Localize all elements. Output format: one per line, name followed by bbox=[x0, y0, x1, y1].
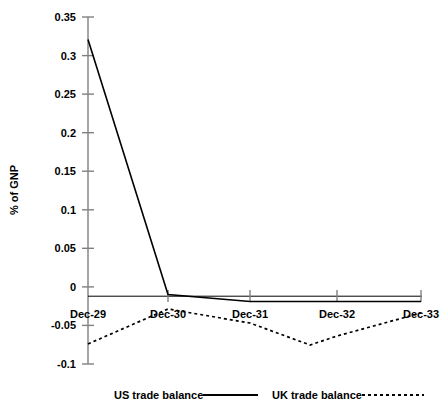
y-tick-label: 0 bbox=[70, 281, 76, 293]
legend-item-uk-trade-balance: UK trade balance bbox=[272, 389, 424, 401]
y-tick-label: 0.2 bbox=[61, 127, 76, 139]
y-tick-label: -0.05 bbox=[51, 319, 76, 331]
x-tick-label: Dec-29 bbox=[70, 308, 106, 320]
x-tick-label: Dec-32 bbox=[319, 308, 355, 320]
y-tick-label: 0.1 bbox=[61, 204, 76, 216]
chart-legend: US trade balance UK trade balance bbox=[114, 389, 424, 401]
y-tick-label: -0.1 bbox=[57, 358, 76, 370]
y-axis-title: % of GNP bbox=[8, 165, 20, 215]
x-axis-labels: Dec-29 Dec-30 Dec-31 Dec-32 Dec-33 bbox=[70, 308, 439, 320]
legend-label-uk-trade-balance: UK trade balance bbox=[272, 389, 362, 401]
legend-item-us-trade-balance: US trade balance bbox=[114, 389, 258, 401]
y-axis-title-text: % of GNP bbox=[8, 165, 20, 215]
y-tick-label: 0.35 bbox=[55, 11, 76, 23]
y-tick-label: 0.25 bbox=[55, 88, 76, 100]
y-tick-label: 0.15 bbox=[55, 165, 76, 177]
x-tick-label: Dec-30 bbox=[150, 308, 186, 320]
y-tick-label: 0.05 bbox=[55, 242, 76, 254]
chart-container: % of GNP 0.35 0.3 0.25 0.2 0.15 0.1 0.05… bbox=[0, 0, 444, 415]
series-line-us-trade-balance bbox=[88, 40, 421, 302]
y-tick-label: 0.3 bbox=[61, 50, 76, 62]
trade-balance-line-chart: % of GNP 0.35 0.3 0.25 0.2 0.15 0.1 0.05… bbox=[0, 0, 444, 415]
legend-label-us-trade-balance: US trade balance bbox=[114, 389, 203, 401]
x-tick-label: Dec-31 bbox=[232, 308, 268, 320]
x-tick-label: Dec-33 bbox=[403, 308, 439, 320]
